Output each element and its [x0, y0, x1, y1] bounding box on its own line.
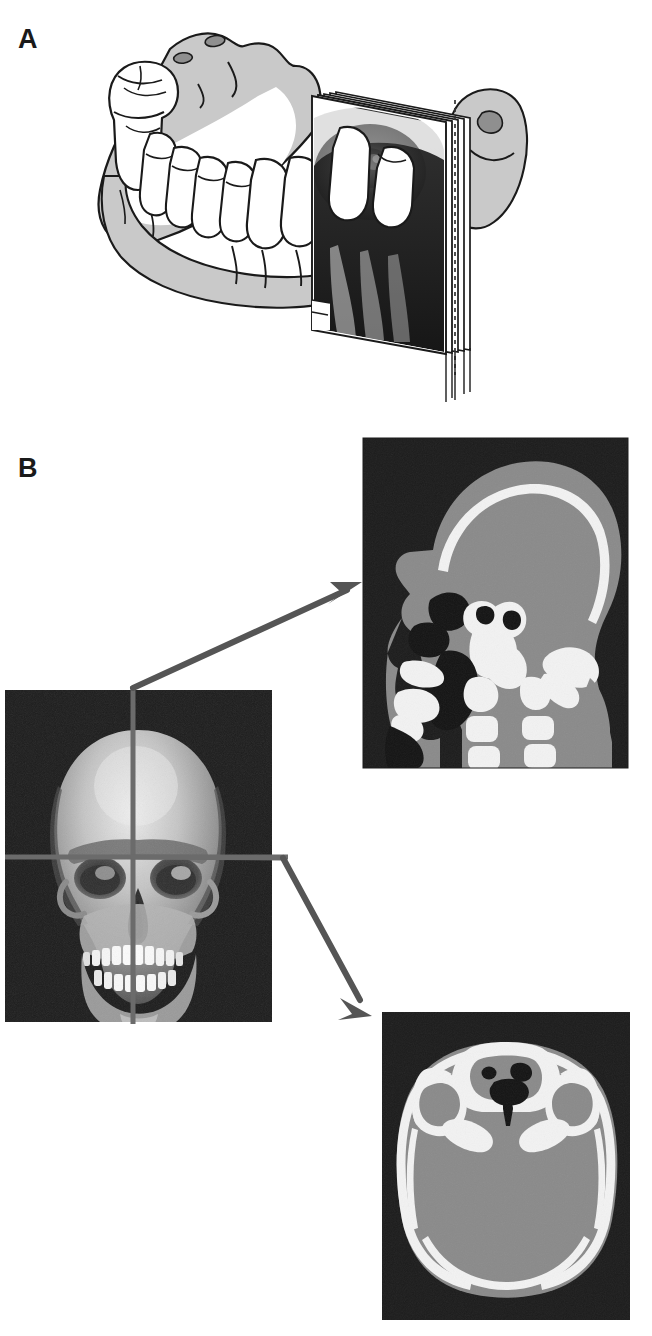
arrow-to-sagittal [133, 582, 362, 688]
tooth-overlapping-film-1 [373, 147, 414, 227]
panel-b-graphic [0, 430, 652, 1336]
radiograph-image [310, 95, 450, 357]
tooth-overlapping-film-2 [329, 127, 370, 220]
figure-root: A B [0, 0, 652, 1336]
radiograph-film-stack [310, 92, 470, 357]
sagittal-ct-slice [363, 438, 628, 770]
panel-a-graphic [0, 0, 652, 430]
axial-ct-slice [382, 1012, 630, 1320]
skull-frontal-view [5, 690, 272, 1038]
